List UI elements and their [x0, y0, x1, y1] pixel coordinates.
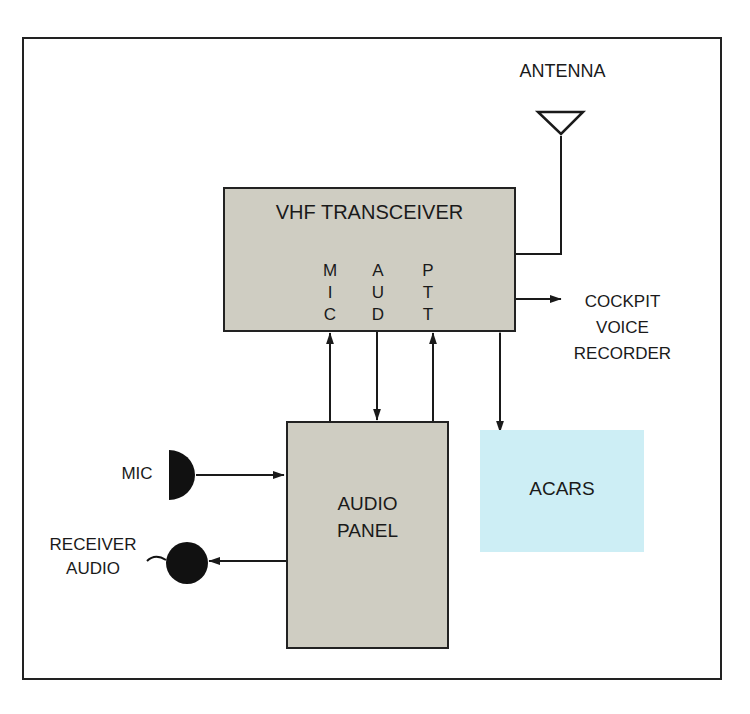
speaker-icon	[147, 542, 208, 584]
acars-label: ACARS	[480, 478, 644, 500]
vhf-transceiver-title: VHF TRANSCEIVER	[223, 201, 516, 224]
antenna-label: ANTENNA	[500, 61, 625, 82]
audio-panel-label: AUDIO PANEL	[286, 490, 449, 544]
microphone-icon	[169, 450, 195, 500]
mic-port-label: M I C	[321, 260, 339, 326]
aud-port-label: A U D	[369, 260, 387, 326]
antenna-icon	[515, 112, 583, 254]
ptt-port-label: P T T	[419, 260, 437, 326]
receiver-audio-label: RECEIVER AUDIO	[38, 533, 148, 581]
cockpit-voice-recorder-label: COCKPIT VOICE RECORDER	[565, 289, 680, 367]
mic-label: MIC	[112, 464, 162, 484]
